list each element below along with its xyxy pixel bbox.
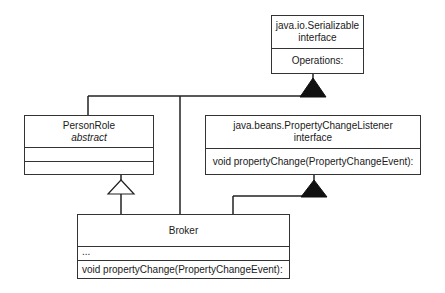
operations-section: void propertyChange(PropertyChangeEvent)… — [78, 260, 289, 278]
class-header: java.io.Serializable interface — [272, 16, 363, 48]
attributes-section — [25, 147, 153, 161]
class-broker[interactable]: Broker ... void propertyChange(PropertyC… — [77, 214, 290, 279]
filled-triangle-pcl-icon — [301, 180, 327, 197]
class-name: Broker — [169, 225, 198, 236]
operation-property-change: void propertyChange(PropertyChangeEvent)… — [82, 264, 283, 275]
class-propertychangelistener[interactable]: java.beans.PropertyChangeListener interf… — [205, 115, 421, 175]
class-name: java.beans.PropertyChangeListener — [206, 120, 420, 132]
class-name: java.io.Serializable — [272, 20, 363, 32]
class-stereotype: interface — [206, 132, 420, 144]
class-stereotype: abstract — [25, 132, 153, 144]
class-stereotype: interface — [272, 32, 363, 44]
class-name: PersonRole — [25, 120, 153, 132]
class-header: Broker — [78, 215, 289, 246]
operations-label: Operations: — [292, 55, 344, 66]
operations-section — [25, 161, 153, 174]
class-personrole[interactable]: PersonRole abstract — [24, 115, 154, 175]
class-header: PersonRole abstract — [25, 116, 153, 147]
class-serializable[interactable]: java.io.Serializable interface Operation… — [271, 15, 364, 74]
hollow-triangle-generalization-icon — [108, 180, 134, 194]
attributes-section: ... — [78, 246, 289, 260]
operations-section: void propertyChange(PropertyChangeEvent)… — [206, 148, 420, 174]
attributes-ellipsis: ... — [82, 246, 90, 257]
filled-triangle-serializable-icon — [300, 78, 326, 97]
operation-property-change: void propertyChange(PropertyChangeEvent)… — [213, 156, 414, 167]
class-header: java.beans.PropertyChangeListener interf… — [206, 116, 420, 148]
operations-section: Operations: — [272, 48, 363, 73]
